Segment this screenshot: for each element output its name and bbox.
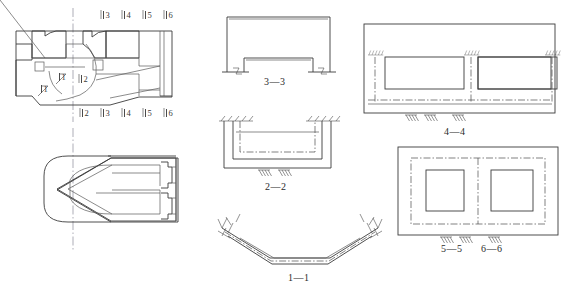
section-2-2-geometry xyxy=(219,116,340,176)
section-3-3-geometry xyxy=(222,17,336,74)
caption-section-3-3: 3—3 xyxy=(264,76,286,87)
section-mark-inner-2: 2 xyxy=(81,74,88,84)
section-mark-bottom-6: 6 xyxy=(166,108,173,118)
section-mark-bottom-5: 5 xyxy=(145,108,152,118)
section-cut-label-1b: 1 xyxy=(59,72,66,82)
section-cut-label-1a: 1 xyxy=(41,84,48,94)
fixed-support-hatch-icon xyxy=(219,116,253,121)
section-mark-top-3: 3 xyxy=(103,10,110,20)
plan-view-geometry xyxy=(44,128,178,252)
section-4-4-geometry xyxy=(364,24,560,121)
caption-section-4-4: 4—4 xyxy=(444,126,466,137)
fixed-support-hatch-icon xyxy=(545,51,560,56)
ground-hatch-icon xyxy=(278,170,292,176)
section-mark-top-4: 4 xyxy=(124,10,131,20)
ground-hatch-icon xyxy=(405,115,419,121)
section-1-1-geometry xyxy=(218,214,382,264)
ground-hatch-icon xyxy=(452,115,466,121)
section-cut-arrow-icon xyxy=(360,214,382,238)
caption-section-6-6: 6—6 xyxy=(481,243,503,254)
section-mark-top-5: 5 xyxy=(145,10,152,20)
ground-hatch-icon xyxy=(424,115,438,121)
section-mark-top-6: 6 xyxy=(166,10,173,20)
section-5-5-6-6-geometry xyxy=(398,147,558,243)
section-mark-bottom-4: 4 xyxy=(124,108,131,118)
fixed-support-hatch-icon xyxy=(306,116,340,121)
caption-section-5-5: 5—5 xyxy=(441,243,463,254)
caption-section-1-1: 1—1 xyxy=(288,272,310,283)
ground-hatch-icon xyxy=(258,170,272,176)
caption-section-2-2: 2—2 xyxy=(265,181,287,192)
fixed-support-hatch-icon xyxy=(368,51,383,56)
section-mark-bottom-3: 3 xyxy=(103,108,110,118)
fixed-support-hatch-icon xyxy=(464,51,479,56)
section-mark-bottom-2: 2 xyxy=(82,108,89,118)
engineering-drawing-sheet: 3 4 5 6 2 3 4 5 6 2 1 1 3—3 2—2 1—1 4—4 … xyxy=(0,0,567,296)
